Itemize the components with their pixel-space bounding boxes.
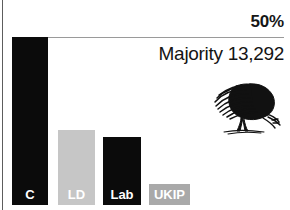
gridline-label-50-percent: 50% xyxy=(251,12,284,32)
election-bar-chart: 50% Majority 13,292 C LD Lab UKIP xyxy=(0,0,290,210)
majority-annotation: Majority 13,292 xyxy=(159,42,284,65)
column-rule-divider xyxy=(2,0,3,210)
bar-label-c: C xyxy=(12,184,48,205)
bar-label-lab: Lab xyxy=(103,184,141,205)
bar-c xyxy=(12,37,48,205)
bar-label-ld: LD xyxy=(58,184,95,205)
bar-label-ukip: UKIP xyxy=(149,184,190,205)
oak-tree-icon xyxy=(206,78,282,138)
gridline-50-percent xyxy=(46,37,284,38)
